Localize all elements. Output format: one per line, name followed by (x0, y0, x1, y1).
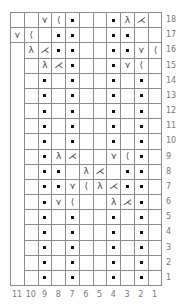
purl-stitch-cell (135, 210, 149, 225)
cable-symbol-icon: ⟨ (126, 152, 130, 161)
knit-stitch-cell (11, 74, 25, 89)
column-number-label: 11 (10, 290, 24, 299)
purl-stitch-cell (39, 89, 53, 104)
purl-stitch-cell (39, 225, 53, 240)
knit-stitch-cell (94, 89, 108, 104)
knit-stitch-cell (25, 180, 39, 195)
cable-symbol-icon: ⋌ (137, 16, 146, 25)
knit-stitch-cell (80, 59, 94, 74)
knit-stitch-cell (149, 74, 163, 89)
knit-stitch-cell (25, 104, 39, 119)
purl-stitch-cell (107, 104, 121, 119)
column-number-label: 10 (24, 290, 38, 299)
column-number-label: 5 (93, 290, 107, 299)
purl-stitch-cell (135, 165, 149, 180)
purl-stitch-cell (135, 89, 149, 104)
purl-stitch-cell (52, 180, 66, 195)
purl-stitch-cell (66, 256, 80, 271)
knit-stitch-cell (39, 28, 53, 43)
knit-stitch-cell (94, 104, 108, 119)
cable-symbol-icon: ⋌ (40, 46, 49, 55)
knit-stitch-cell (149, 134, 163, 149)
cable-stitch-cell: ⋌ (107, 180, 121, 195)
knit-stitch-cell (94, 150, 108, 165)
knit-stitch-cell (94, 225, 108, 240)
knit-stitch-cell (11, 119, 25, 134)
cable-stitch-cell: ⟨ (149, 43, 163, 58)
purl-stitch-cell (107, 119, 121, 134)
knit-stitch-cell (11, 225, 25, 240)
knit-stitch-cell (80, 89, 94, 104)
purl-stitch-cell (135, 134, 149, 149)
knit-stitch-cell (11, 241, 25, 256)
cable-symbol-icon: λ (56, 152, 61, 161)
cable-stitch-cell: ⋎ (135, 43, 149, 58)
purl-stitch-cell (121, 180, 135, 195)
purl-stitch-cell (107, 256, 121, 271)
row-number-label: 18 (166, 15, 182, 24)
knit-stitch-cell (80, 210, 94, 225)
knitting-chart: ⋎⟨λ⋌⋎⟨λ⋌⋎⟨λ⋌⋎⟨λ⋌⋎⟨λ⋌⋎⟨λ⋌⋎⟨λ⋌ 18171615141… (0, 0, 184, 308)
knit-stitch-cell (94, 241, 108, 256)
cable-stitch-cell: ⋌ (66, 150, 80, 165)
cable-symbol-icon: ⋌ (68, 152, 77, 161)
knit-stitch-cell (80, 271, 94, 286)
knit-stitch-cell (80, 256, 94, 271)
row-number-label: 6 (166, 197, 182, 206)
knit-stitch-cell (11, 271, 25, 286)
knit-stitch-cell (25, 13, 39, 28)
column-number-label: 1 (148, 290, 162, 299)
purl-stitch-cell (135, 150, 149, 165)
purl-stitch-cell (135, 256, 149, 271)
purl-stitch-cell (39, 256, 53, 271)
knit-stitch-cell (25, 89, 39, 104)
knit-stitch-cell (94, 43, 108, 58)
purl-stitch-cell (135, 225, 149, 240)
cable-symbol-icon: λ (97, 182, 102, 191)
purl-stitch-cell (121, 28, 135, 43)
cable-symbol-icon: ⋎ (14, 31, 21, 40)
cable-symbol-icon: ⟨ (29, 31, 33, 40)
cable-symbol-icon: ⟨ (84, 182, 88, 191)
cable-symbol-icon: ⟨ (154, 46, 158, 55)
cable-symbol-icon: λ (42, 61, 47, 70)
purl-stitch-cell (39, 241, 53, 256)
knit-stitch-cell (94, 28, 108, 43)
knit-stitch-cell (11, 134, 25, 149)
knit-stitch-cell (135, 28, 149, 43)
knit-stitch-cell (94, 59, 108, 74)
purl-stitch-cell (66, 13, 80, 28)
cable-stitch-cell: ⋎ (52, 195, 66, 210)
knit-stitch-cell (80, 241, 94, 256)
purl-stitch-cell (107, 241, 121, 256)
knit-stitch-cell (52, 119, 66, 134)
purl-stitch-cell (135, 180, 149, 195)
knit-stitch-cell (149, 241, 163, 256)
knit-stitch-cell (149, 89, 163, 104)
knit-stitch-cell (52, 241, 66, 256)
row-number-label: 1 (166, 273, 182, 282)
knit-stitch-cell (149, 195, 163, 210)
knit-stitch-cell (11, 150, 25, 165)
purl-stitch-cell (107, 74, 121, 89)
purl-stitch-cell (39, 195, 53, 210)
row-number-label: 12 (166, 106, 182, 115)
purl-stitch-cell (135, 271, 149, 286)
purl-stitch-cell (107, 271, 121, 286)
knit-stitch-cell (25, 210, 39, 225)
knit-stitch-cell (94, 195, 108, 210)
row-number-label: 5 (166, 212, 182, 221)
cable-symbol-icon: ⋌ (95, 167, 104, 176)
knit-stitch-cell (121, 271, 135, 286)
knit-stitch-cell (121, 241, 135, 256)
cable-stitch-cell: ⟨ (80, 180, 94, 195)
knit-stitch-cell (94, 119, 108, 134)
column-number-label: 8 (51, 290, 65, 299)
purl-stitch-cell (135, 104, 149, 119)
cable-stitch-cell: ⋌ (135, 13, 149, 28)
knit-stitch-cell (80, 13, 94, 28)
knit-stitch-cell (11, 104, 25, 119)
knit-stitch-cell (80, 134, 94, 149)
knit-stitch-cell (80, 225, 94, 240)
purl-stitch-cell (52, 165, 66, 180)
